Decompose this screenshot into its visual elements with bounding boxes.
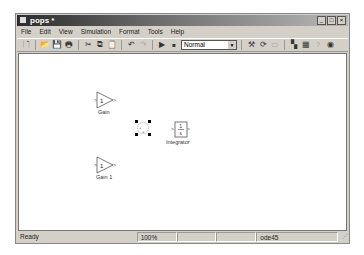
paste-icon[interactable]: 📋 xyxy=(107,40,117,50)
simulation-mode-select[interactable]: Normal ▼ xyxy=(181,40,237,50)
copy-icon[interactable]: ⧉ xyxy=(95,40,105,50)
print-icon[interactable]: 🖶 xyxy=(64,40,74,50)
title-bar[interactable]: pops * _ □ × xyxy=(17,15,348,26)
new-model-icon[interactable]: 🗋 xyxy=(21,40,31,50)
resize-grip-icon[interactable]: ⋰ xyxy=(338,232,348,242)
refresh-icon[interactable]: ⟳ xyxy=(258,40,268,50)
integrator-label: Integrator xyxy=(166,139,190,145)
maximize-button[interactable]: □ xyxy=(327,16,336,25)
svg-text:>: > xyxy=(94,97,97,103)
cut-icon[interactable]: ✂ xyxy=(83,40,93,50)
build-icon[interactable]: ⚒ xyxy=(246,40,256,50)
svg-text:>: > xyxy=(113,97,116,103)
window-title: pops * xyxy=(30,15,54,26)
minimize-button[interactable]: _ xyxy=(317,16,326,25)
save-icon[interactable]: 💾 xyxy=(52,40,62,50)
menu-help[interactable]: Help xyxy=(167,27,188,37)
simulation-mode-value: Normal xyxy=(184,41,205,48)
menu-tools[interactable]: Tools xyxy=(144,27,167,37)
solver-name: ode45 xyxy=(256,232,338,242)
menu-edit[interactable]: Edit xyxy=(35,27,54,37)
toolbar: 🗋 📂 💾 🖶 ✂ ⧉ 📋 ↶ ↷ ▶ ■ Normal ▼ ⚒ ⟳ ▭ ▚ ▦… xyxy=(17,38,348,52)
help-icon[interactable]: ◉ xyxy=(325,40,335,50)
status-field-2 xyxy=(216,232,256,242)
model-explorer-icon[interactable]: ▦ xyxy=(301,40,311,50)
close-button[interactable]: × xyxy=(337,16,346,25)
separator xyxy=(284,40,285,50)
debug-icon[interactable]: ? xyxy=(313,40,323,50)
svg-text:>: > xyxy=(187,126,190,132)
selection-handle xyxy=(135,120,138,123)
selection-handle xyxy=(148,133,151,136)
redo-icon[interactable]: ↷ xyxy=(138,40,148,50)
separator xyxy=(35,40,36,50)
stop-simulation-icon[interactable]: ■ xyxy=(169,40,179,50)
gain-label: Gain xyxy=(98,109,110,115)
start-simulation-icon[interactable]: ▶ xyxy=(157,40,167,50)
selection-handle xyxy=(148,120,151,123)
gain1-label: Gain 1 xyxy=(96,174,112,180)
selection-handle xyxy=(135,133,138,136)
undo-icon[interactable]: ↶ xyxy=(126,40,136,50)
svg-text:>: > xyxy=(94,162,97,168)
separator xyxy=(78,40,79,50)
library-browser-icon[interactable]: ▚ xyxy=(289,40,299,50)
sum-block[interactable]: + + xyxy=(134,119,152,137)
separator xyxy=(121,40,122,50)
status-field-1 xyxy=(177,232,217,242)
diagram-canvas[interactable]: 1 > > Gain + + 1 s > > Integrator xyxy=(18,53,347,231)
chevron-down-icon[interactable]: ▼ xyxy=(228,41,236,49)
open-icon[interactable]: 📂 xyxy=(40,40,50,50)
integrator-block[interactable]: 1 s > > xyxy=(171,121,191,138)
gain-block[interactable]: 1 > > xyxy=(93,91,119,109)
model-window: pops * _ □ × File Edit View Simulation F… xyxy=(15,13,350,244)
menu-view[interactable]: View xyxy=(55,27,77,37)
zoom-level: 100% xyxy=(137,232,177,242)
status-bar: Ready 100% ode45 ⋰ xyxy=(17,232,348,242)
separator xyxy=(152,40,153,50)
menu-format[interactable]: Format xyxy=(115,27,144,37)
simulink-app-icon xyxy=(19,16,27,24)
status-text: Ready xyxy=(17,232,137,242)
svg-text:>: > xyxy=(171,126,174,132)
separator xyxy=(241,40,242,50)
menu-bar: File Edit View Simulation Format Tools H… xyxy=(17,27,348,37)
gain1-block[interactable]: 1 > > xyxy=(93,156,119,174)
update-diagram-icon[interactable]: ▭ xyxy=(270,40,280,50)
svg-text:>: > xyxy=(113,162,116,168)
menu-file[interactable]: File xyxy=(17,27,35,37)
menu-simulation[interactable]: Simulation xyxy=(77,27,115,37)
